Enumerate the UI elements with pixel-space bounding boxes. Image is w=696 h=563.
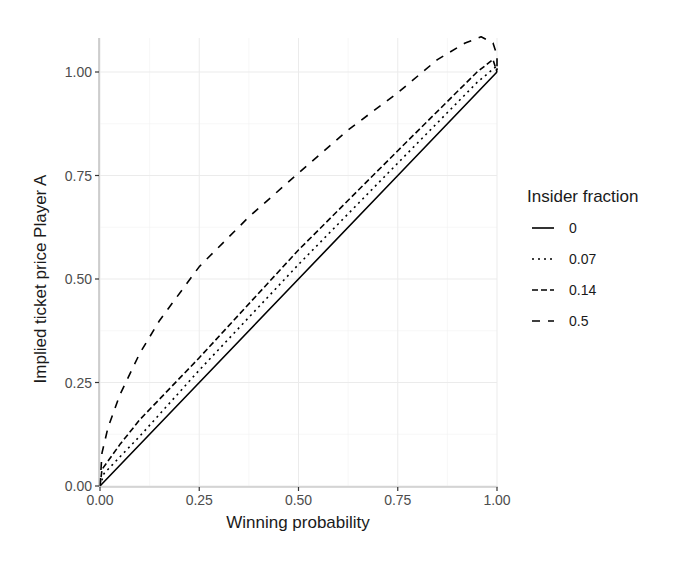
- legend-label: 0.07: [569, 251, 596, 267]
- legend-label: 0.14: [569, 282, 596, 298]
- y-tick-label: 0.00: [65, 478, 92, 494]
- x-tick-label: 0.25: [186, 492, 213, 508]
- legend: Insider fraction 00.070.140.5: [527, 187, 639, 329]
- line-chart: 0.000.250.500.751.00 0.000.250.500.751.0…: [0, 0, 696, 563]
- y-tick-label: 1.00: [65, 64, 92, 80]
- y-axis-title: Implied ticket price Player A: [31, 174, 50, 383]
- x-tick-label: 0.75: [384, 492, 411, 508]
- legend-label: 0.5: [569, 313, 589, 329]
- x-tick-label: 1.00: [483, 492, 510, 508]
- y-axis-ticks: 0.000.250.500.751.00: [65, 64, 99, 494]
- legend-title: Insider fraction: [527, 187, 639, 206]
- y-tick-label: 0.25: [65, 375, 92, 391]
- y-tick-label: 0.50: [65, 271, 92, 287]
- legend-label: 0: [569, 220, 577, 236]
- x-axis-ticks: 0.000.250.500.751.00: [86, 487, 510, 508]
- grid-lines: [100, 38, 497, 486]
- x-axis-title: Winning probability: [226, 513, 370, 532]
- x-tick-label: 0.00: [86, 492, 113, 508]
- y-tick-label: 0.75: [65, 168, 92, 184]
- x-tick-label: 0.50: [285, 492, 312, 508]
